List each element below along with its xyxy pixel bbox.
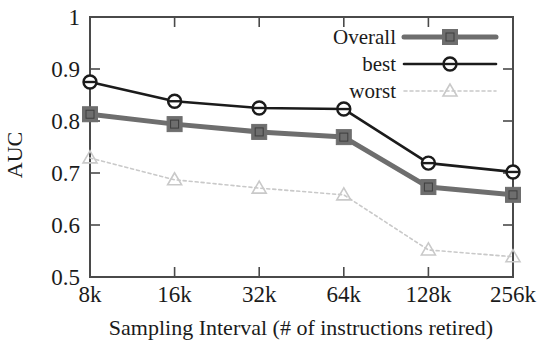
x-tick-label: 16k	[157, 282, 192, 307]
plot-frame	[90, 17, 513, 277]
legend-marker-overall	[443, 30, 458, 45]
y-axis-ticks	[90, 69, 513, 225]
x-tick-label: 256k	[490, 282, 537, 307]
data-point-marker-triangle	[168, 173, 182, 185]
data-point-marker-square	[83, 107, 98, 122]
data-point-marker-square	[167, 117, 182, 132]
x-tick-label: 64k	[327, 282, 362, 307]
chart-legend: Overallbestworst	[333, 25, 496, 103]
y-tick-label: 0.7	[51, 161, 80, 186]
legend-label-best: best	[362, 52, 396, 76]
y-axis-title: AUC	[2, 132, 27, 178]
data-point-marker-triangle	[443, 84, 457, 96]
data-point-marker-square	[421, 180, 436, 195]
x-tick-label: 128k	[405, 282, 452, 307]
x-axis-tick-labels: 8k16k32k64k128k256k	[79, 282, 537, 307]
data-point-marker-square	[252, 124, 267, 139]
data-point-marker-square	[506, 187, 521, 202]
y-tick-label: 0.5	[51, 265, 80, 290]
x-tick-label: 32k	[242, 282, 277, 307]
data-point-marker-square	[443, 30, 458, 45]
series-overall	[83, 107, 521, 203]
series-line	[90, 114, 513, 195]
series-worst	[83, 151, 520, 262]
legend-label-worst: worst	[349, 79, 396, 103]
y-tick-label: 0.9	[51, 57, 80, 82]
y-tick-label: 1	[69, 5, 81, 30]
legend-label-overall: Overall	[333, 25, 396, 49]
data-point-marker-triangle	[421, 243, 435, 255]
legend-marker-worst	[443, 84, 457, 96]
y-tick-label: 0.8	[51, 109, 80, 134]
y-axis-tick-labels: 0.50.60.70.80.91	[51, 5, 80, 290]
x-axis-title: Sampling Interval (# of instructions ret…	[109, 315, 493, 340]
line-chart: 0.50.60.70.80.91 8k16k32k64k128k256k Ove…	[0, 0, 538, 342]
x-tick-label: 8k	[79, 282, 103, 307]
chart-figure: 0.50.60.70.80.91 8k16k32k64k128k256k Ove…	[0, 0, 538, 342]
series-line	[90, 158, 513, 257]
data-series-layer	[83, 76, 521, 262]
legend-marker-best	[444, 58, 457, 71]
data-point-marker-square	[336, 130, 351, 145]
y-tick-label: 0.6	[51, 213, 80, 238]
